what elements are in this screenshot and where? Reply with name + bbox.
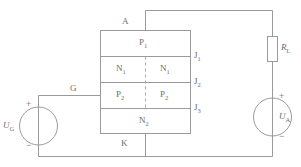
layer-label-n1-left-sub: 1 bbox=[123, 68, 126, 75]
component-label-rl-sub: L bbox=[287, 47, 291, 54]
component-label-ua: UA bbox=[279, 112, 290, 123]
layer-label-p2-left: P2 bbox=[116, 90, 124, 101]
junction-label-j1: J1 bbox=[194, 51, 201, 62]
component-label-ug: UG bbox=[3, 121, 14, 132]
polarity-minus-anode-source: − bbox=[279, 132, 284, 141]
component-label-ua-sub: A bbox=[286, 116, 291, 123]
layer-label-p1-sub: 1 bbox=[144, 42, 147, 49]
layer-label-n1-right: N1 bbox=[160, 64, 170, 75]
junction-label-j2-sub: 2 bbox=[198, 81, 201, 88]
junction-label-j3: J3 bbox=[194, 103, 201, 114]
layer-label-n2-sub: 2 bbox=[146, 120, 149, 127]
terminal-label-anode: A bbox=[122, 17, 129, 26]
polarity-plus-anode-source: + bbox=[279, 92, 284, 101]
terminal-label-cathode: K bbox=[121, 139, 128, 148]
layer-label-n1-left: N1 bbox=[116, 64, 126, 75]
layer-label-p1: P1 bbox=[139, 38, 147, 49]
component-label-rl: RL bbox=[281, 43, 290, 54]
layer-label-n1-right-sub: 1 bbox=[167, 68, 170, 75]
resistor-rl-body bbox=[268, 37, 278, 62]
polarity-minus-gate-source: − bbox=[26, 141, 31, 150]
terminal-label-gate: G bbox=[70, 84, 77, 93]
layer-label-n2: N2 bbox=[139, 116, 149, 127]
layer-label-p2-right-sub: 2 bbox=[165, 94, 168, 101]
component-label-ug-sub: G bbox=[10, 125, 15, 132]
junction-label-j2: J2 bbox=[194, 77, 201, 88]
polarity-plus-gate-source: + bbox=[26, 100, 31, 109]
layer-label-p2-left-sub: 2 bbox=[121, 94, 124, 101]
circuit-schematic-svg bbox=[0, 0, 301, 167]
junction-label-j1-sub: 1 bbox=[198, 55, 201, 62]
layer-label-p2-right: P2 bbox=[160, 90, 168, 101]
circuit-diagram: A G K P1 N1 N1 P2 P2 N2 J1 J2 J3 RL UG bbox=[0, 0, 301, 167]
junction-label-j3-sub: 3 bbox=[198, 107, 201, 114]
